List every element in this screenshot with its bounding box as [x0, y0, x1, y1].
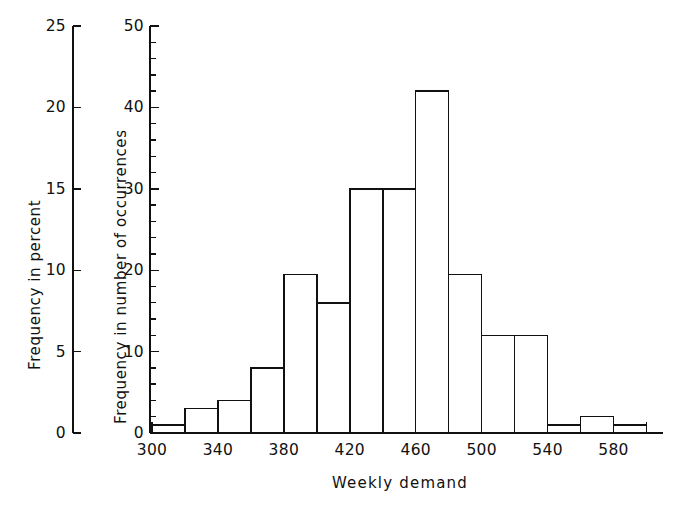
x-axis-tick-label: 540: [532, 441, 563, 459]
left-axis-tick-label: 0: [18, 424, 66, 442]
x-axis-title: Weekly demand: [332, 474, 468, 492]
histogram-bar: [416, 91, 449, 433]
histogram-bars-group: [152, 91, 647, 433]
left-axis-tick-label: 15: [18, 180, 66, 198]
x-axis-tick-label: 380: [269, 441, 300, 459]
x-axis-tick-label: 580: [598, 441, 629, 459]
histogram-bar: [548, 425, 581, 433]
x-axis-tick-label: 500: [466, 441, 497, 459]
histogram-bar: [152, 425, 185, 433]
histogram-bar: [350, 189, 383, 433]
right-axis-title: Frequency in number of occurrences: [112, 129, 130, 424]
x-axis-tick-label: 340: [203, 441, 234, 459]
x-axis-tick-label: 300: [137, 441, 168, 459]
left-axis-title: Frequency in percent: [26, 200, 44, 370]
right-axis-tick-label: 50: [96, 17, 144, 35]
histogram-bar: [515, 335, 548, 433]
histogram-bar: [383, 189, 416, 433]
histogram-bar: [185, 409, 218, 433]
right-axis-group: [150, 26, 159, 433]
histogram-bar: [614, 425, 647, 433]
x-axis-tick-label: 420: [335, 441, 366, 459]
left-axis-tick-label: 20: [18, 98, 66, 116]
histogram-bar: [317, 303, 350, 433]
histogram-bar: [218, 400, 251, 433]
histogram-figure: 0510152025 01020304050 30034038042046050…: [0, 0, 680, 511]
histogram-bar: [581, 417, 614, 433]
histogram-bar: [251, 368, 284, 433]
histogram-bar: [284, 274, 317, 433]
right-axis-tick-label: 40: [96, 98, 144, 116]
histogram-bar: [482, 335, 515, 433]
left-axis-tick-label: 25: [18, 17, 66, 35]
x-axis-tick-label: 460: [400, 441, 431, 459]
histogram-bar: [449, 274, 482, 433]
right-axis-tick-label: 0: [96, 424, 144, 442]
left-axis-group: [73, 26, 81, 433]
